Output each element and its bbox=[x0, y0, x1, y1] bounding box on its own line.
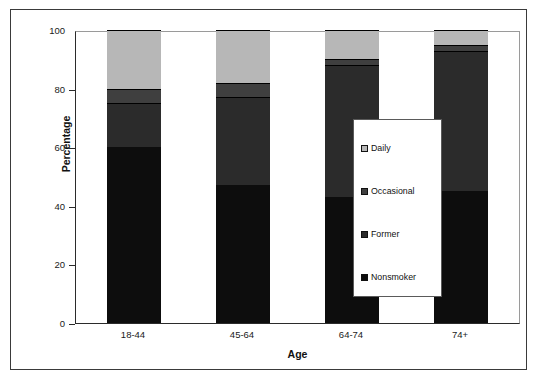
y-tick-label-0: 0 bbox=[31, 319, 65, 329]
legend-swatch-icon bbox=[361, 231, 368, 238]
legend-item-daily[interactable]: Daily bbox=[361, 142, 391, 154]
legend-swatch-icon bbox=[361, 188, 368, 195]
legend-item-nonsmoker[interactable]: Nonsmoker bbox=[361, 271, 416, 283]
bar-segment-nonsmoker[interactable] bbox=[216, 185, 270, 323]
bar-segment-occasional[interactable] bbox=[216, 83, 270, 98]
bar-group-18-44[interactable] bbox=[107, 30, 161, 323]
bar-segment-occasional[interactable] bbox=[107, 89, 161, 104]
bar-segment-former[interactable] bbox=[107, 103, 161, 147]
chart-legend: Daily Occasional Former Nonsmoker bbox=[353, 119, 442, 297]
legend-item-former[interactable]: Former bbox=[361, 228, 399, 240]
legend-item-occasional[interactable]: Occasional bbox=[361, 185, 415, 197]
figure-caption bbox=[12, 374, 512, 386]
x-tick-label-18-44: 18-44 bbox=[103, 329, 163, 340]
x-tick-label-45-64: 45-64 bbox=[212, 329, 272, 340]
bar-segment-daily[interactable] bbox=[434, 30, 488, 45]
bar-segment-former[interactable] bbox=[216, 97, 270, 185]
y-tick-label-80: 80 bbox=[31, 85, 65, 95]
bar-segment-former[interactable] bbox=[434, 51, 488, 192]
figure-frame: Percentage 0 20 40 60 80 100 bbox=[10, 9, 527, 370]
y-tick-0 bbox=[69, 324, 75, 325]
x-tick-label-74-plus: 74+ bbox=[430, 329, 490, 340]
legend-label-former: Former bbox=[371, 230, 399, 239]
x-axis-title: Age bbox=[75, 348, 520, 360]
y-tick-label-60: 60 bbox=[31, 143, 65, 153]
legend-label-nonsmoker: Nonsmoker bbox=[371, 273, 416, 282]
legend-swatch-icon bbox=[361, 274, 368, 281]
bar-segment-nonsmoker[interactable] bbox=[107, 147, 161, 323]
bar-segment-occasional[interactable] bbox=[434, 45, 488, 51]
y-tick-label-100: 100 bbox=[31, 26, 65, 36]
bar-segment-daily[interactable] bbox=[216, 30, 270, 83]
y-tick-label-40: 40 bbox=[31, 202, 65, 212]
bar-segment-occasional[interactable] bbox=[325, 59, 379, 65]
bar-group-45-64[interactable] bbox=[216, 30, 270, 323]
y-tick-label-20: 20 bbox=[31, 260, 65, 270]
stacked-bar-chart: Percentage 0 20 40 60 80 100 bbox=[11, 10, 528, 371]
bar-segment-nonsmoker[interactable] bbox=[434, 191, 488, 323]
legend-label-occasional: Occasional bbox=[371, 187, 415, 196]
bar-segment-daily[interactable] bbox=[107, 30, 161, 89]
bar-group-74-plus[interactable] bbox=[434, 30, 488, 323]
legend-swatch-icon bbox=[361, 145, 368, 152]
bar-segment-daily[interactable] bbox=[325, 30, 379, 59]
x-tick-label-64-74: 64-74 bbox=[321, 329, 381, 340]
plot-area bbox=[75, 31, 520, 324]
legend-label-daily: Daily bbox=[371, 144, 391, 153]
